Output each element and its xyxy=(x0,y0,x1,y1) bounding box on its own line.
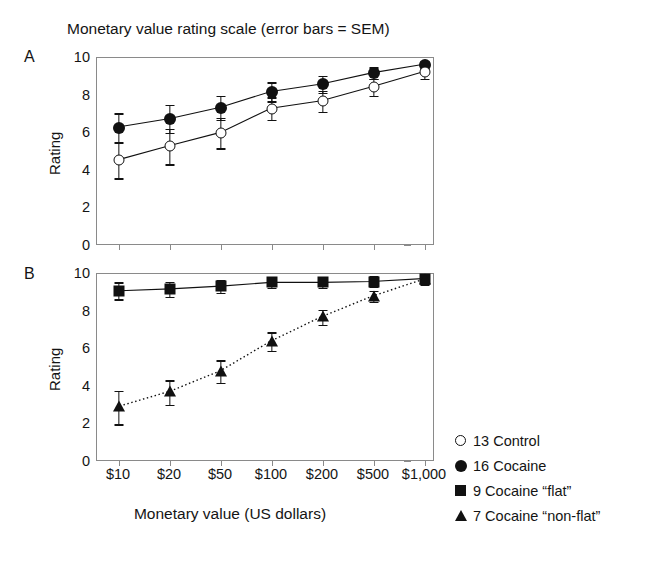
y-tick-label: 6 xyxy=(64,340,90,356)
legend-marker-circle-open-icon xyxy=(455,435,473,446)
x-tick-mark xyxy=(323,244,324,250)
data-point-circle-open xyxy=(114,155,125,166)
x-tick-label: $10 xyxy=(106,466,130,482)
data-point-triangle-filled xyxy=(317,311,329,322)
y-tick-mark xyxy=(404,461,411,462)
data-point-circle-filled xyxy=(266,86,278,98)
y-tick-label: 8 xyxy=(64,303,90,319)
error-bar-cap xyxy=(217,96,226,97)
error-bar-cap xyxy=(268,120,277,121)
error-bar-cap xyxy=(319,112,328,113)
series-line-circle-filled xyxy=(97,58,433,244)
y-tick-label: 10 xyxy=(64,49,90,65)
error-bar-cap xyxy=(268,351,277,352)
error-bar-cap xyxy=(217,383,226,384)
y-tick-label: 10 xyxy=(64,265,90,281)
error-bar-cap xyxy=(166,129,175,130)
data-point-circle-open xyxy=(318,96,329,107)
data-point-circle-filled xyxy=(113,122,125,134)
plot-area-panel-a xyxy=(96,57,434,245)
error-bar-cap xyxy=(115,282,124,283)
data-point-triangle-filled xyxy=(266,335,278,346)
data-point-triangle-filled xyxy=(113,401,125,412)
error-bar-cap xyxy=(268,332,277,333)
y-tick-mark xyxy=(404,245,411,246)
series-line-circle-open xyxy=(97,58,433,244)
y-axis-ticks-panel-b: 0246810 xyxy=(60,273,90,461)
data-point-square-filled xyxy=(318,277,329,288)
legend-label: 13 Control xyxy=(473,433,540,449)
x-tick-mark xyxy=(119,244,120,250)
legend-label: 16 Cocaine xyxy=(473,458,546,474)
error-bar-cap xyxy=(115,424,124,425)
data-point-circle-open xyxy=(420,67,431,78)
error-bar-cap xyxy=(217,360,226,361)
error-bar-cap xyxy=(268,288,277,289)
x-tick-label: $20 xyxy=(157,466,181,482)
error-bar-cap xyxy=(319,91,328,92)
y-tick-label: 0 xyxy=(64,237,90,253)
error-bar-cap xyxy=(268,97,277,98)
error-bar-cap xyxy=(370,302,379,303)
error-bar-cap xyxy=(166,380,175,381)
legend-item: 13 Control xyxy=(455,428,600,453)
plot-area-panel-b xyxy=(96,273,434,461)
error-bar-cap xyxy=(166,297,175,298)
series-line-square-filled xyxy=(97,274,433,460)
error-bar-cap xyxy=(115,391,124,392)
y-tick-label: 4 xyxy=(64,162,90,178)
y-tick-label: 6 xyxy=(64,124,90,140)
error-bar-cap xyxy=(370,287,379,288)
y-tick-label: 8 xyxy=(64,87,90,103)
error-bar-cap xyxy=(421,284,430,285)
x-tick-label: $50 xyxy=(208,466,232,482)
error-bar-cap xyxy=(115,299,124,300)
data-point-triangle-filled xyxy=(368,290,380,301)
x-tick-mark xyxy=(170,244,171,250)
legend-label: 9 Cocaine “flat” xyxy=(473,483,571,499)
x-tick-label: $500 xyxy=(357,466,389,482)
error-bar-cap xyxy=(166,405,175,406)
error-bar-cap xyxy=(268,82,277,83)
x-tick-mark xyxy=(374,244,375,250)
y-tick-label: 2 xyxy=(64,415,90,431)
data-point-circle-open xyxy=(369,82,380,93)
figure-root: Monetary value rating scale (error bars … xyxy=(0,0,647,562)
data-point-triangle-filled xyxy=(419,273,431,284)
x-tick-label: $100 xyxy=(255,466,287,482)
error-bar-cap xyxy=(319,325,328,326)
data-point-circle-open xyxy=(267,103,278,114)
panel-label-a: A xyxy=(24,48,35,66)
x-tick-mark xyxy=(425,244,426,250)
error-bar-cap xyxy=(370,79,379,80)
error-bar-cap xyxy=(115,143,124,144)
y-tick-label: 4 xyxy=(64,378,90,394)
legend-marker-square-filled-icon xyxy=(455,485,473,496)
legend-item: 9 Cocaine “flat” xyxy=(455,478,600,503)
error-bar-cap xyxy=(319,76,328,77)
data-point-circle-filled xyxy=(368,67,380,79)
data-point-circle-open xyxy=(216,128,227,139)
data-point-triangle-filled xyxy=(164,386,176,397)
triangle-filled-icon xyxy=(455,510,467,521)
legend-item: 7 Cocaine “non-flat” xyxy=(455,503,600,528)
error-bar-cap xyxy=(217,118,226,119)
error-bar-cap xyxy=(166,105,175,106)
data-point-circle-filled xyxy=(317,78,329,90)
data-point-triangle-filled xyxy=(215,365,227,376)
figure-title: Monetary value rating scale (error bars … xyxy=(67,20,390,38)
x-tick-mark xyxy=(272,244,273,250)
legend-item: 16 Cocaine xyxy=(455,453,600,478)
circle-filled-icon xyxy=(455,460,467,472)
y-axis-ticks-panel-a: 0246810 xyxy=(60,57,90,245)
error-bar-cap xyxy=(166,164,175,165)
y-tick-label: 0 xyxy=(64,453,90,469)
error-bar-cap xyxy=(421,79,430,80)
data-point-circle-open xyxy=(165,141,176,152)
x-tick-mark xyxy=(221,244,222,250)
error-bar-cap xyxy=(217,148,226,149)
data-point-square-filled xyxy=(114,285,125,296)
data-point-square-filled xyxy=(267,277,278,288)
square-filled-icon xyxy=(455,485,466,496)
legend-marker-circle-filled-icon xyxy=(455,460,473,472)
